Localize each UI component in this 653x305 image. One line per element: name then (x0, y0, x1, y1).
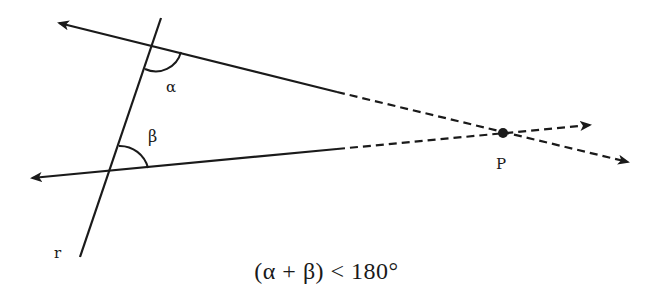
angle-alpha-arc (145, 52, 181, 71)
lower-line-solid (32, 149, 337, 178)
angle-beta-arc (119, 146, 148, 168)
upper-line-dashed (337, 92, 628, 162)
lower-line-dashed (337, 125, 590, 149)
label-point-p: P (496, 155, 506, 173)
upper-line-solid (59, 23, 337, 92)
label-alpha: α (166, 78, 176, 96)
intersection-point-p (498, 128, 508, 138)
label-beta: β (148, 127, 157, 146)
inequality-caption: (α + β) < 180° (0, 258, 653, 285)
